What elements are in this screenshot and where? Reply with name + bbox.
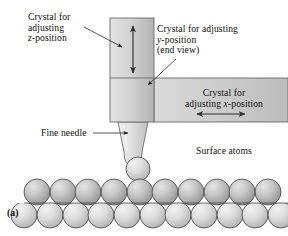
atom bbox=[88, 202, 114, 228]
crystal-x-label: Crystal for adjusting x-position bbox=[176, 88, 272, 109]
panel-label: (a) bbox=[7, 208, 19, 219]
atom bbox=[24, 179, 50, 205]
crystal-z-label: Crystal for adjusting z-position bbox=[28, 12, 70, 44]
atom bbox=[114, 202, 140, 228]
crystal-block-z bbox=[110, 18, 154, 122]
atom bbox=[101, 179, 127, 205]
crystal-y-label-line-3: (end view) bbox=[157, 45, 238, 56]
atom bbox=[217, 202, 243, 228]
atom bbox=[140, 202, 166, 228]
crystal-y-label: Crystal for adjusting y-position (end vi… bbox=[157, 24, 238, 56]
atom bbox=[242, 202, 268, 228]
lifted-atom bbox=[126, 157, 150, 181]
atom bbox=[204, 179, 230, 205]
atom bbox=[178, 179, 204, 205]
atom bbox=[127, 179, 153, 205]
atom bbox=[229, 179, 255, 205]
crystal-y-label-line-1: Crystal for adjusting bbox=[157, 24, 238, 35]
atom bbox=[63, 202, 89, 228]
atom bbox=[165, 202, 191, 228]
atom bbox=[50, 179, 76, 205]
stm-diagram-figure: Crystal for adjusting z-position Crystal… bbox=[0, 0, 288, 236]
atom bbox=[191, 202, 217, 228]
atom bbox=[255, 179, 281, 205]
crystal-x-label-line-2: adjusting x-position bbox=[176, 99, 272, 110]
atom bbox=[152, 179, 178, 205]
crystal-z-label-line-1: Crystal for bbox=[28, 12, 70, 23]
atom bbox=[75, 179, 101, 205]
atom-row-top bbox=[24, 179, 281, 205]
fine-needle-label: Fine needle bbox=[41, 128, 87, 139]
atom bbox=[37, 202, 63, 228]
surface-atoms-label: Surface atoms bbox=[196, 146, 252, 157]
atom bbox=[268, 202, 288, 228]
atom-row-bottom bbox=[11, 202, 288, 228]
crystal-z-label-line-3: z-position bbox=[28, 33, 70, 44]
